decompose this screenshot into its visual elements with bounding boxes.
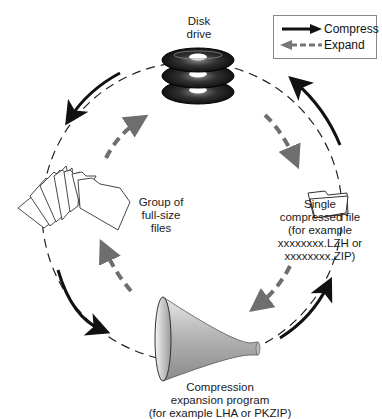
- legend: Compress Expand: [273, 15, 377, 59]
- compress-arrow-right-top: [295, 82, 340, 145]
- full-files-label: Group of full-size files: [131, 196, 191, 235]
- compress-arrow-top-left: [70, 73, 120, 118]
- full-files-label-line1: Group of: [131, 196, 191, 209]
- program-label-line3: (for example LHA or PKZIP): [145, 407, 295, 419]
- compressed-file-label-line2: compressed file: [270, 211, 370, 224]
- compressed-file-label-line3: (for example: [270, 224, 370, 237]
- dashed-arrow-icon: [280, 40, 324, 50]
- expand-arrow-top-right: [265, 115, 295, 160]
- legend-compress-label: Compress: [324, 22, 379, 36]
- folders-fan-icon: [18, 166, 130, 230]
- funnel-icon: [155, 297, 260, 381]
- solid-arrow-icon: [280, 24, 324, 34]
- expand-arrow-right-bottom: [257, 266, 290, 306]
- full-files-label-line3: files: [131, 222, 191, 235]
- full-files-label-line2: full-size: [131, 209, 191, 222]
- disk-drive-label-line2: drive: [177, 28, 221, 41]
- program-label-line1: Compression: [145, 381, 295, 394]
- compressed-file-label-line4: xxxxxxxx.LZH or: [270, 237, 370, 250]
- compressed-file-label-line5: xxxxxxxx.ZIP): [270, 250, 370, 263]
- expand-arrow-left-bottom: [104, 248, 131, 291]
- legend-expand-label: Expand: [324, 38, 365, 52]
- disk-drive-label: Disk drive: [177, 15, 221, 41]
- compressed-file-label: Single compressed file (for example xxxx…: [270, 198, 370, 263]
- compressed-file-label-line1: Single: [270, 198, 370, 211]
- expand-arrow-top-left: [106, 120, 140, 158]
- disk-stack-icon: [162, 48, 234, 104]
- program-label: Compression expansion program (for examp…: [145, 381, 295, 419]
- disk-drive-label-line1: Disk: [177, 15, 221, 28]
- compress-arrow-left-bottom: [58, 270, 102, 330]
- program-label-line2: expansion program: [145, 394, 295, 407]
